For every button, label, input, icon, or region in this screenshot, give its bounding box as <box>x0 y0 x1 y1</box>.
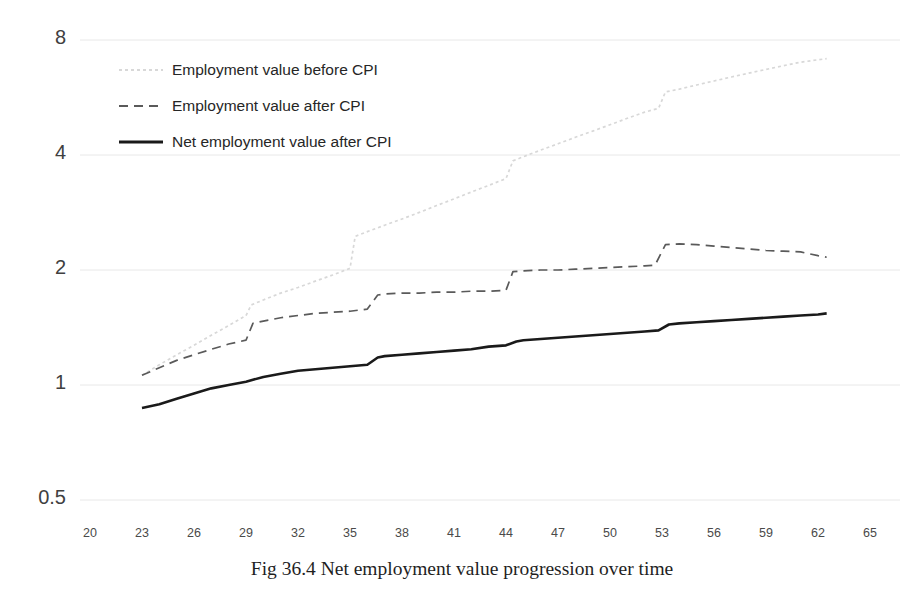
x-tick-label: 44 <box>486 526 526 540</box>
x-tick-label: 32 <box>278 526 318 540</box>
legend-label: Employment value after CPI <box>172 98 365 114</box>
y-tick-label: 0.5 <box>0 486 66 509</box>
x-tick-label: 35 <box>330 526 370 540</box>
chart-legend: Employment value before CPIEmployment va… <box>118 52 538 160</box>
y-tick-label: 4 <box>0 141 66 164</box>
solid-line-swatch <box>118 135 164 149</box>
x-tick-label: 26 <box>174 526 214 540</box>
legend-label: Employment value before CPI <box>172 62 378 78</box>
x-tick-label: 47 <box>538 526 578 540</box>
figure-container: 0.51248 20232629323538414447505356596265… <box>0 0 924 602</box>
x-tick-label: 20 <box>70 526 110 540</box>
legend-item: Employment value after CPI <box>118 88 538 124</box>
y-tick-label: 8 <box>0 26 66 49</box>
x-tick-label: 56 <box>694 526 734 540</box>
dashed-line-swatch <box>118 99 164 113</box>
x-tick-label: 65 <box>850 526 890 540</box>
y-tick-label: 2 <box>0 256 66 279</box>
x-tick-label: 41 <box>434 526 474 540</box>
legend-label: Net employment value after CPI <box>172 134 392 150</box>
x-tick-label: 53 <box>642 526 682 540</box>
series-line-2 <box>142 244 827 375</box>
series-line-3 <box>142 313 827 408</box>
x-tick-label: 62 <box>798 526 838 540</box>
legend-item: Net employment value after CPI <box>118 124 538 160</box>
dotted-line-swatch <box>118 63 164 77</box>
x-tick-label: 38 <box>382 526 422 540</box>
x-tick-label: 59 <box>746 526 786 540</box>
y-tick-label: 1 <box>0 371 66 394</box>
x-tick-label: 50 <box>590 526 630 540</box>
x-tick-label: 29 <box>226 526 266 540</box>
figure-caption: Fig 36.4 Net employment value progressio… <box>0 558 924 580</box>
x-tick-label: 23 <box>122 526 162 540</box>
legend-item: Employment value before CPI <box>118 52 538 88</box>
